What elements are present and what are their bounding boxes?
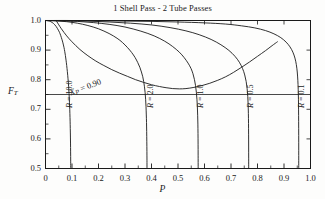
x-tick-label: 0	[34, 173, 58, 183]
x-tick-label: 0.1	[60, 173, 84, 183]
plot-area	[0, 0, 325, 199]
chart-figure: 1 Shell Pass - 2 Tube Passes 0.50.60.70.…	[0, 0, 325, 199]
x-tick-label: 0.8	[246, 173, 270, 183]
x-tick-label: 0.3	[113, 173, 137, 183]
x-tick-label: 0.4	[140, 173, 164, 183]
x-tick-label: 0.5	[166, 173, 190, 183]
x-tick-label: 1.0	[299, 173, 323, 183]
x-tick-label: 0.6	[193, 173, 217, 183]
y-tick-label: 0.5	[15, 163, 41, 173]
x-axis-label: P	[0, 184, 325, 194]
x-tick-label: 0.9	[272, 173, 296, 183]
x-tick-label: 0.7	[219, 173, 243, 183]
curve-label-r-0-1: R = 0.1	[297, 85, 306, 108]
x-tick-label: 0.2	[87, 173, 111, 183]
curve-label-r-2-0: R = 2.0	[146, 85, 155, 108]
y-tick-label: 0.6	[15, 133, 41, 143]
curve-label-r-0-5: R = 0.5	[246, 85, 255, 108]
y-tick-label: 1.0	[15, 15, 41, 25]
y-tick-label: 0.9	[15, 44, 41, 54]
y-tick-label: 0.8	[15, 74, 41, 84]
curve-label-r-1-0: R = 1.0	[196, 85, 205, 108]
y-tick-label: 0.7	[15, 103, 41, 113]
y-axis-label: FT	[8, 86, 18, 97]
